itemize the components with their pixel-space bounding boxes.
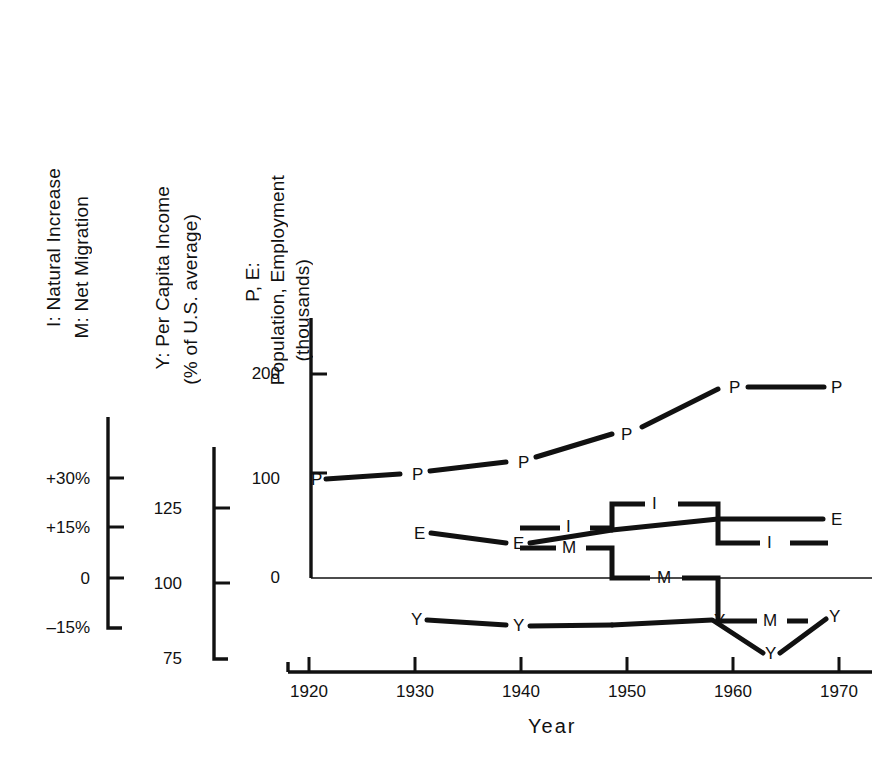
series-P-line bbox=[326, 387, 824, 479]
figure-root: I: Natural Increase M: Net Migration +30… bbox=[0, 0, 886, 771]
point-label-P-1960: P bbox=[729, 379, 740, 396]
point-label-E-1940: E bbox=[513, 535, 524, 552]
point-label-M-1955: M bbox=[657, 569, 671, 586]
point-label-I-1945: I bbox=[566, 518, 571, 535]
point-label-I-1965: I bbox=[767, 534, 772, 551]
income-axis-spine bbox=[214, 447, 230, 659]
point-label-M-1945: M bbox=[562, 539, 576, 556]
point-label-E-1970: E bbox=[831, 511, 842, 528]
point-label-P-1930: P bbox=[412, 466, 423, 483]
point-label-Y-1960: Y bbox=[714, 612, 725, 629]
plot-canvas bbox=[0, 0, 886, 771]
population-axis-spine bbox=[311, 318, 327, 578]
series-E-line bbox=[431, 519, 823, 543]
rate-axis-spine bbox=[108, 417, 124, 628]
point-label-E-1930: E bbox=[414, 525, 425, 542]
point-label-M-1965: M bbox=[763, 612, 777, 629]
point-label-P-1970: P bbox=[831, 379, 842, 396]
point-label-P-1940: P bbox=[518, 454, 529, 471]
point-label-Y-1965: Y bbox=[765, 645, 776, 662]
point-label-P-1950: P bbox=[621, 426, 632, 443]
point-label-I-1955: I bbox=[652, 495, 657, 512]
point-label-Y-1970: Y bbox=[829, 608, 840, 625]
point-label-P-1920: P bbox=[311, 471, 322, 488]
point-label-Y-1950: Y bbox=[513, 617, 524, 634]
point-label-Y-1930: Y bbox=[411, 611, 422, 628]
x-axis-rule bbox=[288, 657, 872, 672]
